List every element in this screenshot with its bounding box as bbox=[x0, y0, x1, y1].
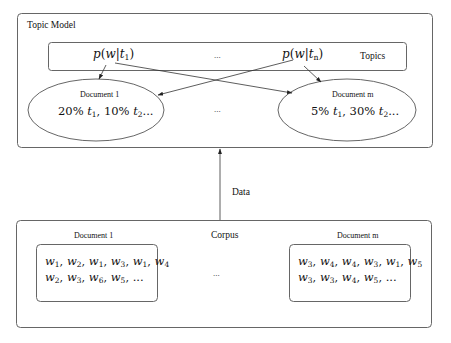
arrow-tn-docm bbox=[304, 66, 321, 82]
corpus-document-1-line-1: w1, w2, w1, w3, w1, w4 bbox=[45, 254, 169, 268]
topics-ellipsis: ... bbox=[214, 50, 221, 60]
corpus-document-m-line-1: w3, w4, w4, w3, w1, w5 bbox=[298, 254, 422, 268]
corpus-documents-ellipsis: ... bbox=[213, 268, 220, 278]
document-m-label: Document m bbox=[332, 90, 374, 99]
arrow-t1-doc1 bbox=[99, 65, 106, 79]
topic-first-distribution: p(w|t1) bbox=[93, 47, 134, 61]
corpus-document-m-label: Document m bbox=[337, 231, 379, 240]
corpus-title: Corpus bbox=[211, 230, 238, 240]
corpus-document-m-line-2: w3, w3, w4, w5, ... bbox=[298, 270, 397, 284]
corpus-document-1-line-2: w2, w3, w6, w5, ... bbox=[45, 270, 144, 284]
topic-model-title: Topic Model bbox=[27, 20, 76, 30]
topics-label: Topics bbox=[360, 51, 385, 61]
document-1-topic-mixture: 20% t1, 10% t2... bbox=[58, 104, 154, 118]
document-m-topic-mixture: 5% t1, 30% t2... bbox=[311, 104, 399, 118]
documents-ellipsis: ... bbox=[214, 104, 221, 114]
document-1-label: Document 1 bbox=[80, 90, 119, 99]
topic-last-distribution: p(w|tn) bbox=[282, 47, 323, 61]
corpus-document-1-label: Document 1 bbox=[74, 231, 113, 240]
data-label: Data bbox=[232, 187, 250, 197]
